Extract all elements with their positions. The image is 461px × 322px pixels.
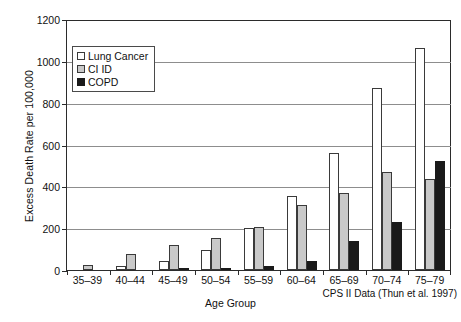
x-axis-tick-label: 70–74 — [365, 274, 408, 286]
bar — [307, 261, 317, 270]
bar — [435, 161, 445, 270]
y-axis-title: Excess Death Rate per 100,000 — [23, 21, 35, 271]
bar — [287, 196, 297, 270]
legend-item-lung-cancer: Lung Cancer — [77, 50, 148, 62]
bar — [382, 172, 392, 270]
bar-group — [323, 20, 366, 270]
bar — [329, 153, 339, 270]
y-axis-tick-label: 800 — [42, 98, 67, 110]
legend-item-copd: COPD — [77, 76, 148, 88]
x-axis-tick-label: 40–44 — [109, 274, 152, 286]
y-axis-tick-label: 400 — [42, 181, 67, 193]
bar-group — [408, 20, 451, 270]
bar — [179, 268, 189, 270]
x-axis-tick-label: 65–69 — [323, 274, 366, 286]
bar-group — [280, 20, 323, 270]
black-square-swatch-icon — [77, 78, 85, 86]
bar — [392, 222, 402, 270]
bar — [221, 268, 231, 271]
bar — [116, 266, 126, 270]
bar — [425, 179, 435, 270]
bar-chart: Excess Death Rate per 100,000 0200400600… — [0, 0, 461, 322]
bar — [254, 227, 264, 270]
bar — [244, 228, 254, 270]
x-axis-tick-label: 55–59 — [237, 274, 280, 286]
legend-label: Lung Cancer — [88, 50, 148, 62]
x-axis-tick-label: 75–79 — [408, 274, 451, 286]
x-axis-tick-label: 50–54 — [194, 274, 237, 286]
source-annotation: CPS II Data (Thun et al. 1997) — [322, 288, 457, 299]
bar — [169, 245, 179, 270]
bar-group — [238, 20, 281, 270]
bar-group — [195, 20, 238, 270]
y-axis-tick-label: 200 — [42, 223, 67, 235]
bar — [201, 250, 211, 270]
bar — [83, 265, 93, 270]
bar-group — [152, 20, 195, 270]
white-square-swatch-icon — [77, 52, 85, 60]
legend-label: COPD — [88, 76, 118, 88]
legend-label: CI ID — [88, 63, 112, 75]
bar — [264, 266, 274, 270]
bar-group — [366, 20, 409, 270]
x-axis-tick-label: 45–49 — [152, 274, 195, 286]
x-axis-tick-label: 60–64 — [280, 274, 323, 286]
y-axis-tick-label: 1200 — [37, 14, 67, 26]
legend-item-chd: CI ID — [77, 63, 148, 75]
gray-square-swatch-icon — [77, 65, 85, 73]
chart-legend: Lung Cancer CI ID COPD — [72, 46, 155, 92]
bar — [159, 261, 169, 270]
x-axis-tick-label: 35–39 — [66, 274, 109, 286]
bar — [415, 48, 425, 270]
bar — [339, 193, 349, 270]
y-axis-tick-label: 1000 — [37, 56, 67, 68]
y-axis-tick-label: 600 — [42, 140, 67, 152]
bar — [349, 241, 359, 270]
bar — [211, 238, 221, 270]
bar — [126, 254, 136, 270]
bar — [372, 88, 382, 270]
bar — [297, 205, 307, 270]
x-axis-tick-labels: 35–3940–4445–4950–5455–5960–6465–6970–74… — [66, 274, 451, 286]
